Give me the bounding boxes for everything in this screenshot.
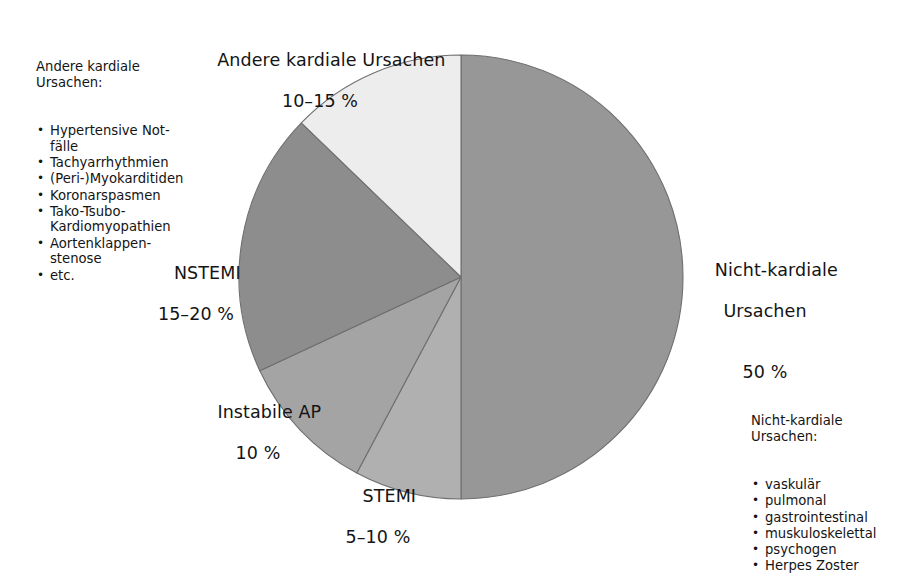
annotation-nicht-kardiale-ursachen-item: •pulmonal <box>751 493 919 509</box>
bullet-icon: • <box>752 526 759 540</box>
annotation-andere-kardiale-ursachen-item: •etc. <box>36 268 212 284</box>
bullet-icon: • <box>37 204 44 218</box>
annotation-andere-kardiale-ursachen-item: •(Peri-)Myokarditiden <box>36 171 212 187</box>
annotation-andere-kardiale-ursachen-item: •Tachyarrhythmien <box>36 155 212 171</box>
annotation-nicht-kardiale-ursachen-item-label: gastrointestinal <box>765 510 868 525</box>
annotation-andere-kardiale-ursachen-item: •Tako-Tsubo- Kardiomyopathien <box>36 204 212 235</box>
annotation-nicht-kardiale-ursachen-list: •vaskulär•pulmonal•gastrointestinal•musk… <box>751 477 919 574</box>
annotation-nicht-kardiale-ursachen-item-label: psychogen <box>765 542 837 557</box>
slice-label-stemi-name: STEMI <box>363 486 417 506</box>
annotation-andere-kardiale-ursachen-item-label: Aortenklappen- stenose <box>50 236 151 267</box>
bullet-icon: • <box>752 558 759 572</box>
slice-label-instabile-ap-name: Instabile AP <box>217 402 321 422</box>
pie-slice-nicht-kardiale-ursachen[interactable] <box>461 55 683 499</box>
annotation-nicht-kardiale-ursachen: Nicht-kardiale Ursachen: •vaskulär•pulmo… <box>751 382 919 577</box>
slice-label-andere-kardiale-ursachen-name: Andere kardiale Ursachen <box>217 50 445 70</box>
annotation-andere-kardiale-ursachen-item-label: Koronarspasmen <box>50 188 161 203</box>
annotation-andere-kardiale-ursachen-list: •Hypertensive Not- fälle•Tachyarrhythmie… <box>36 123 212 283</box>
bullet-icon: • <box>37 123 44 137</box>
bullet-icon: • <box>37 188 44 202</box>
annotation-andere-kardiale-ursachen-title: Andere kardiale Ursachen: <box>36 59 212 90</box>
annotation-nicht-kardiale-ursachen-item: •gastrointestinal <box>751 510 919 526</box>
slice-label-instabile-ap-value: 10 % <box>160 443 356 463</box>
annotation-nicht-kardiale-ursachen-title: Nicht-kardiale Ursachen: <box>751 413 919 444</box>
slice-label-stemi-value: 5–10 % <box>294 527 462 547</box>
bullet-icon: • <box>37 155 44 169</box>
bullet-icon: • <box>752 493 759 507</box>
slice-label-nicht-kardiale-ursachen-line1: Nicht-kardiale <box>715 260 838 280</box>
slice-label-nicht-kardiale-ursachen-line2: Ursachen <box>676 301 854 321</box>
annotation-nicht-kardiale-ursachen-item: •psychogen <box>751 542 919 558</box>
annotation-andere-kardiale-ursachen: Andere kardiale Ursachen: •Hypertensive … <box>36 28 212 315</box>
annotation-andere-kardiale-ursachen-item-label: Tachyarrhythmien <box>50 155 169 170</box>
annotation-nicht-kardiale-ursachen-item-label: Herpes Zoster <box>765 558 859 573</box>
bullet-icon: • <box>37 268 44 282</box>
annotation-andere-kardiale-ursachen-item-label: Hypertensive Not- fälle <box>50 123 170 154</box>
annotation-nicht-kardiale-ursachen-item-label: pulmonal <box>765 493 826 508</box>
bullet-icon: • <box>37 236 44 250</box>
annotation-nicht-kardiale-ursachen-item-label: muskuloskelettal <box>765 526 876 541</box>
annotation-nicht-kardiale-ursachen-item-label: vaskulär <box>765 477 821 492</box>
annotation-andere-kardiale-ursachen-item-label: etc. <box>50 268 75 283</box>
annotation-andere-kardiale-ursachen-item: •Koronarspasmen <box>36 188 212 204</box>
annotation-nicht-kardiale-ursachen-item: •vaskulär <box>751 477 919 493</box>
bullet-icon: • <box>37 171 44 185</box>
annotation-nicht-kardiale-ursachen-item: •muskuloskelettal <box>751 526 919 542</box>
slice-label-nicht-kardiale-ursachen-value: 50 % <box>676 362 854 382</box>
annotation-andere-kardiale-ursachen-item: •Hypertensive Not- fälle <box>36 123 212 154</box>
annotation-nicht-kardiale-ursachen-item: •Herpes Zoster <box>751 558 919 574</box>
slice-label-andere-kardiale-ursachen: Andere kardiale Ursachen 10–15 % <box>186 30 454 152</box>
annotation-andere-kardiale-ursachen-item: •Aortenklappen- stenose <box>36 236 212 267</box>
annotation-andere-kardiale-ursachen-item-label: (Peri-)Myokarditiden <box>50 171 183 186</box>
bullet-icon: • <box>752 542 759 556</box>
bullet-icon: • <box>752 510 759 524</box>
bullet-icon: • <box>752 477 759 491</box>
annotation-andere-kardiale-ursachen-item-label: Tako-Tsubo- Kardiomyopathien <box>50 204 171 235</box>
slice-label-stemi: STEMI 5–10 % <box>294 466 462 577</box>
slice-label-andere-kardiale-ursachen-value: 10–15 % <box>186 91 454 111</box>
